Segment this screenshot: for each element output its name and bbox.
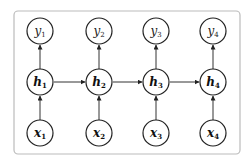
node-x1: x1 bbox=[27, 120, 53, 146]
rnn-diagram: y1 y2 y3 y4 h1 h2 h3 h4 x1 x2 x3 x4 bbox=[0, 0, 249, 161]
node-x3: x3 bbox=[143, 120, 169, 146]
output-edges bbox=[40, 45, 213, 69]
node-y3: y3 bbox=[143, 18, 169, 44]
node-x2: x2 bbox=[86, 120, 112, 146]
node-h4: h4 bbox=[200, 69, 226, 95]
node-h2: h2 bbox=[86, 69, 112, 95]
node-x4: x4 bbox=[200, 120, 226, 146]
node-h1: h1 bbox=[27, 69, 53, 95]
input-edges bbox=[40, 96, 213, 120]
output-nodes: y1 y2 y3 y4 bbox=[27, 18, 226, 44]
node-y1: y1 bbox=[27, 18, 53, 44]
input-nodes: x1 x2 x3 x4 bbox=[27, 120, 226, 146]
node-y4: y4 bbox=[200, 18, 226, 44]
node-y2: y2 bbox=[86, 18, 112, 44]
node-h3: h3 bbox=[143, 69, 169, 95]
